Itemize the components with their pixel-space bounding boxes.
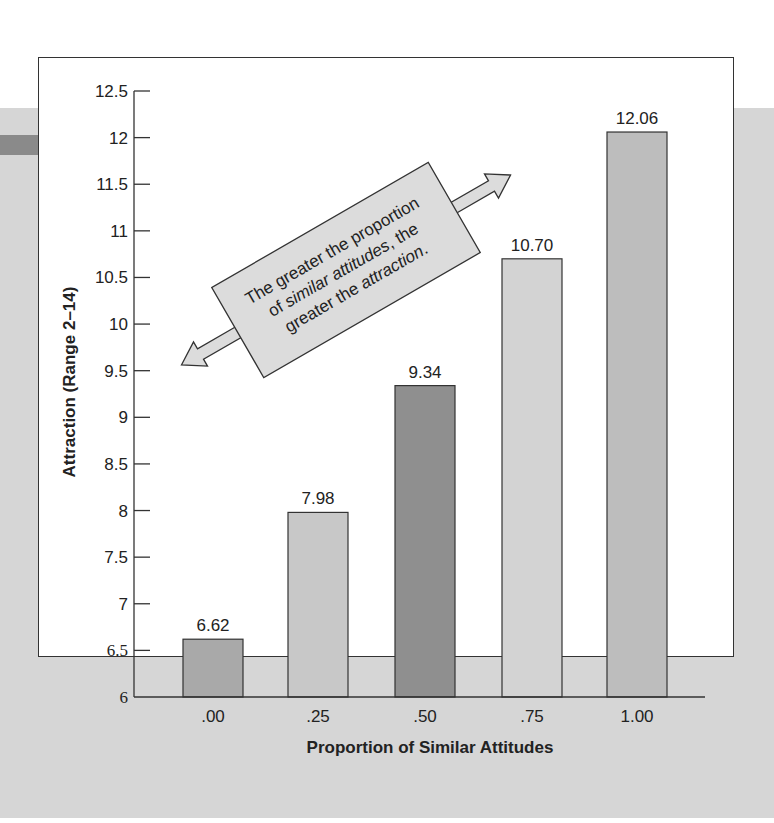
bar-value-label: 10.70 [511,236,554,255]
bar [395,386,455,697]
y-tick-label: 10 [109,315,128,334]
y-tick-label: 10.5 [95,268,128,287]
y-tick-label: 9 [119,408,128,427]
x-tick-label: .00 [201,707,225,726]
y-tick-label: 7.5 [104,548,128,567]
x-tick-label: .50 [413,707,437,726]
y-axis: 66.577.588.599.51010.51111.51212.5 [95,82,150,707]
y-tick-label: 11 [110,222,128,241]
x-axis: .00.25.50.751.00 [134,697,705,726]
bar-value-label: 7.98 [301,489,334,508]
bar-chart: 66.577.588.599.51010.51111.51212.5 6.627… [0,0,774,823]
bar-value-label: 6.62 [196,616,229,635]
y-tick-label: 12 [109,129,128,148]
bar-value-label: 9.34 [408,363,441,382]
y-tick-label: 11.5 [96,175,128,194]
bar [183,639,243,697]
bar [502,259,562,697]
y-tick-label: 9.5 [104,362,128,381]
annotation-arrow: The greater the proportion of similar at… [155,130,536,410]
y-tick-label: 7 [119,595,128,614]
y-tick-label: 8.5 [104,455,128,474]
bar [607,132,667,697]
y-axis-label: Attraction (Range 2–14) [60,287,79,478]
bar-value-label: 12.06 [616,109,659,128]
y-tick-label: 6.5 [107,641,128,660]
x-tick-label: .75 [520,707,544,726]
x-tick-label: .25 [306,707,330,726]
y-tick-label: 6 [120,688,129,707]
bar [288,512,348,697]
x-tick-label: 1.00 [620,707,653,726]
x-axis-label: Proportion of Similar Attitudes [307,738,554,757]
y-tick-label: 12.5 [95,82,128,101]
y-tick-label: 8 [119,502,128,521]
